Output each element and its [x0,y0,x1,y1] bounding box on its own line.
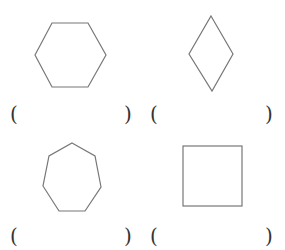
square-shape [183,146,242,206]
answer-close-paren: ) [265,104,273,124]
answer-close-paren: ) [124,226,132,246]
answer-close-paren: ) [124,104,132,124]
answer-open-paren: ( [10,104,18,124]
heptagon-shape [43,143,101,211]
answer-open-paren: ( [10,226,18,246]
answer-close-paren: ) [265,226,273,246]
hexagon-shape [35,23,106,87]
shapes-figure [0,0,285,250]
answer-open-paren: ( [150,104,158,124]
rhombus-shape [189,16,233,91]
answer-open-paren: ( [150,226,158,246]
